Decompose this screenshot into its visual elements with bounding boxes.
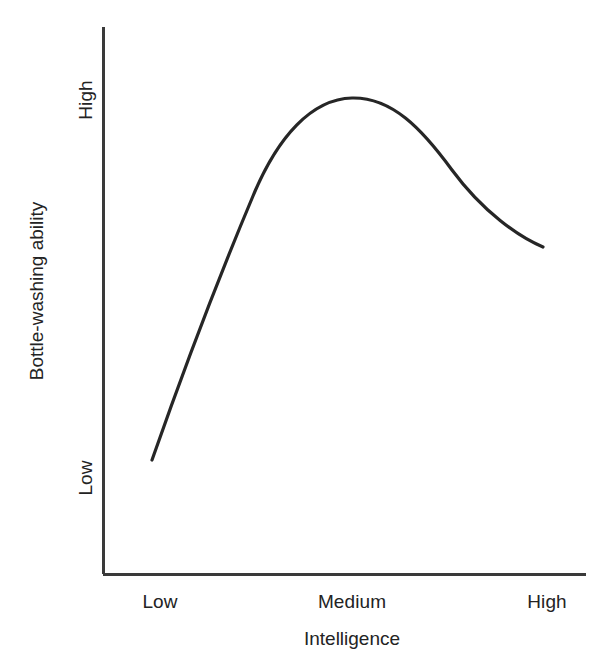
data-curve-series-1	[152, 98, 543, 460]
x-tick-label-high: High	[527, 592, 566, 611]
y-tick-label-high: High	[76, 80, 95, 119]
x-tick-label-medium: Medium	[318, 592, 386, 611]
x-tick-label-low: Low	[142, 592, 177, 611]
y-axis-title: Bottle-washing ability	[27, 202, 46, 380]
x-axis-title: Intelligence	[304, 629, 400, 648]
y-tick-label-low: Low	[76, 460, 95, 495]
chart-figure: High Low Bottle-washing ability Low Medi…	[0, 0, 616, 665]
